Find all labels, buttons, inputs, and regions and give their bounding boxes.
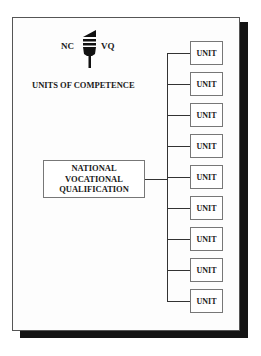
unit-box-1: UNIT xyxy=(190,41,223,65)
unit-box-5: UNIT xyxy=(190,165,223,189)
nvq-box: NATIONAL VOCATIONAL QUALIFICATION xyxy=(43,160,145,198)
branch-line xyxy=(167,115,190,116)
branch-line xyxy=(167,208,190,209)
unit-box-9: UNIT xyxy=(190,289,223,313)
branch-line xyxy=(167,239,190,240)
unit-box-7: UNIT xyxy=(190,227,223,251)
unit-box-8: UNIT xyxy=(190,258,223,282)
nvq-line-3: QUALIFICATION xyxy=(59,184,129,195)
unit-box-4: UNIT xyxy=(190,134,223,158)
units-of-competence-heading: UNITS OF COMPETENCE xyxy=(32,80,135,90)
branch-line xyxy=(167,84,190,85)
logo-left-text: NC xyxy=(61,41,74,51)
nvq-line-2: VOCATIONAL xyxy=(65,174,123,185)
branch-line xyxy=(167,146,190,147)
unit-box-6: UNIT xyxy=(190,196,223,220)
branch-line xyxy=(167,53,190,54)
nvq-line-1: NATIONAL xyxy=(71,163,116,174)
logo-right-text: VQ xyxy=(101,41,115,51)
branch-line xyxy=(167,270,190,271)
torch-icon xyxy=(80,28,100,70)
unit-box-3: UNIT xyxy=(190,103,223,127)
unit-box-2: UNIT xyxy=(190,72,223,96)
branch-line xyxy=(167,177,190,178)
branch-line xyxy=(167,301,190,302)
nc-vq-logo: NC VQ xyxy=(60,28,120,70)
nvq-connector xyxy=(145,179,168,180)
